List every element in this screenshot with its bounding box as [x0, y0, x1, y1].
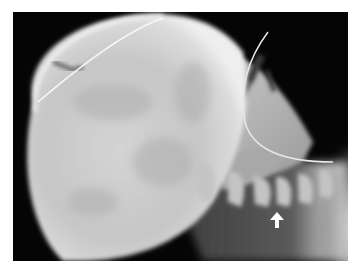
xray-image: Lateral X-ray of an infant skull with en… — [13, 12, 348, 261]
xray-drawing — [13, 12, 348, 261]
